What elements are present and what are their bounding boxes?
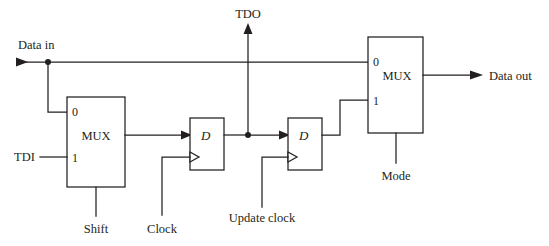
ff-capture-body	[190, 118, 224, 170]
tdo-net	[244, 23, 291, 140]
data-out-arrow-icon	[470, 71, 483, 80]
mux-left-name-label: MUX	[81, 129, 110, 143]
data-out-label: Data out	[489, 69, 532, 83]
update-clock-label: Update clock	[229, 211, 296, 225]
mode-label: Mode	[381, 169, 411, 183]
mux-right-body	[368, 37, 423, 133]
clock-label: Clock	[147, 222, 178, 236]
ff-update-block	[262, 100, 368, 207]
ff-capture-name-label: D	[200, 128, 211, 143]
tdo-arrow-icon	[244, 23, 253, 34]
shift-label: Shift	[84, 222, 109, 236]
mux-left-port-0-label: 0	[72, 105, 78, 119]
ff-update-output-wire	[322, 100, 368, 135]
ff-update-body	[288, 118, 322, 170]
tdi-label: TDI	[14, 150, 35, 164]
circuit-schematic-canvas: 0 1 0 1 MUX MUX D D Data in Data out TDI…	[0, 0, 549, 246]
mux-right-port-1-label: 1	[373, 94, 379, 108]
data-in-branch-to-mux0-wire	[48, 62, 67, 112]
mux-right-port-0-label: 0	[373, 55, 379, 69]
mux-right-name-label: MUX	[382, 69, 411, 83]
boundary-scan-cell-diagram: 0 1 0 1 MUX MUX D D Data in Data out TDI…	[0, 0, 549, 246]
mux-left-port-1-label: 1	[72, 151, 78, 165]
ff-update-name-label: D	[298, 128, 309, 143]
mux-right-block	[368, 37, 483, 163]
update-clock-input-wire	[262, 157, 288, 207]
tdo-label: TDO	[235, 7, 261, 21]
data-in-label: Data in	[18, 38, 55, 52]
clock-input-wire	[162, 157, 190, 215]
